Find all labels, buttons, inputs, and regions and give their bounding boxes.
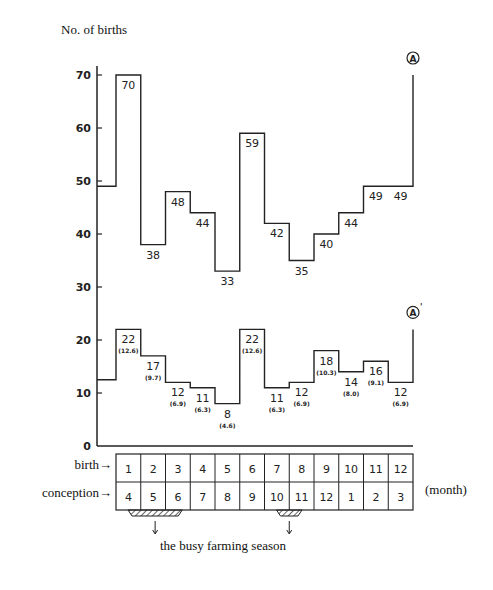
series-marker-label: A xyxy=(410,54,417,64)
data-value-label: 38 xyxy=(146,249,160,262)
data-value-label: 22 xyxy=(121,333,135,346)
series-marker-prime: ' xyxy=(420,303,422,312)
conception-month-cell: 7 xyxy=(199,491,206,504)
data-value-label: 49 xyxy=(394,190,408,203)
birth-month-cell: 12 xyxy=(394,463,408,476)
conception-month-cell: 1 xyxy=(348,491,355,504)
data-value-label: 17 xyxy=(146,360,160,373)
conception-month-cell: 8 xyxy=(224,491,231,504)
data-percentage-label: (6.9) xyxy=(393,400,409,407)
conception-month-cell: 2 xyxy=(372,491,379,504)
series-marker-label: A xyxy=(410,308,417,318)
conception-month-cell: 9 xyxy=(249,491,256,504)
y-tick-label: 60 xyxy=(76,122,92,135)
busy-season-hatch xyxy=(128,510,182,516)
conception-month-cell: 6 xyxy=(174,491,181,504)
birth-month-cell: 5 xyxy=(224,463,231,476)
birth-month-cell: 10 xyxy=(344,463,358,476)
birth-month-cell: 8 xyxy=(298,463,305,476)
data-value-label: 48 xyxy=(171,196,185,209)
conception-month-cell: 10 xyxy=(270,491,284,504)
birth-month-cell: 1 xyxy=(125,463,132,476)
birth-month-cell: 3 xyxy=(174,463,181,476)
data-value-label: 22 xyxy=(245,333,259,346)
y-tick-label: 40 xyxy=(76,228,92,241)
conception-month-cell: 5 xyxy=(150,491,157,504)
data-percentage-label: (12.6) xyxy=(118,347,139,354)
data-value-label: 35 xyxy=(295,265,309,278)
data-percentage-label: (6.3) xyxy=(269,406,285,413)
y-tick-label: 70 xyxy=(76,69,92,82)
data-value-label: 59 xyxy=(245,137,259,150)
data-percentage-label: (9.1) xyxy=(368,379,384,386)
data-value-label: 44 xyxy=(196,217,210,230)
y-tick-label: 20 xyxy=(76,334,92,347)
birth-month-cell: 7 xyxy=(273,463,280,476)
birth-month-cell: 4 xyxy=(199,463,206,476)
data-value-label: 16 xyxy=(369,365,383,378)
birth-month-cell: 2 xyxy=(150,463,157,476)
data-value-label: 11 xyxy=(270,392,284,405)
data-percentage-label: (10.3) xyxy=(316,369,337,376)
month-unit-label: (month) xyxy=(425,482,467,498)
busy-season-hatch xyxy=(277,510,303,516)
row-label-conception: conception→ xyxy=(0,485,112,501)
data-value-label: 14 xyxy=(344,376,358,389)
data-percentage-label: (6.9) xyxy=(170,400,186,407)
data-value-label: 42 xyxy=(270,227,284,240)
data-value-label: 8 xyxy=(224,408,231,421)
conception-month-cell: 12 xyxy=(319,491,333,504)
y-tick-label: 50 xyxy=(76,175,92,188)
data-percentage-label: (6.3) xyxy=(195,406,211,413)
data-value-label: 70 xyxy=(121,79,135,92)
data-value-label: 33 xyxy=(220,275,234,288)
data-value-label: 12 xyxy=(394,386,408,399)
y-tick-label: 30 xyxy=(76,281,92,294)
y-tick-label: 0 xyxy=(83,440,91,453)
row-label-birth: birth→ xyxy=(30,457,112,473)
births-step-chart: 010203040506070703848443359423540444949A… xyxy=(0,0,493,590)
data-value-label: 12 xyxy=(171,386,185,399)
data-value-label: 44 xyxy=(344,217,358,230)
birth-month-cell: 9 xyxy=(323,463,330,476)
data-percentage-label: (9.7) xyxy=(145,374,161,381)
data-percentage-label: (8.0) xyxy=(343,390,359,397)
conception-month-cell: 4 xyxy=(125,491,132,504)
data-percentage-label: (12.6) xyxy=(242,347,263,354)
data-value-label: 11 xyxy=(196,392,210,405)
birth-month-cell: 11 xyxy=(369,463,383,476)
conception-month-cell: 3 xyxy=(397,491,404,504)
conception-month-cell: 11 xyxy=(295,491,309,504)
series-a-line xyxy=(97,75,413,271)
busy-season-label: the busy farming season xyxy=(160,538,286,554)
data-percentage-label: (6.9) xyxy=(294,400,310,407)
y-tick-label: 10 xyxy=(76,387,92,400)
data-percentage-label: (4.6) xyxy=(219,422,235,429)
data-value-label: 18 xyxy=(319,355,333,368)
data-value-label: 40 xyxy=(319,238,333,251)
birth-month-cell: 6 xyxy=(249,463,256,476)
data-value-label: 49 xyxy=(369,190,383,203)
data-value-label: 12 xyxy=(295,386,309,399)
